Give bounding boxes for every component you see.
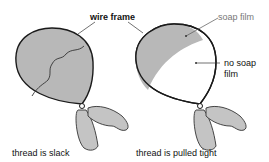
soap-film-label: soap film: [218, 12, 254, 22]
no-soap-film-label-line2: film: [224, 69, 238, 79]
caption-thread-slack: thread is slack: [12, 148, 70, 158]
left-loop: [16, 28, 93, 109]
wire-frame-label: wire frame: [90, 12, 135, 22]
right-loop: [136, 24, 216, 109]
diagram-canvas: [0, 0, 269, 162]
caption-thread-pulled-tight: thread is pulled tight: [136, 148, 217, 158]
no-soap-film-label-line1: no soap: [224, 58, 256, 68]
right-hand: [194, 106, 246, 150]
left-hand: [76, 106, 128, 150]
